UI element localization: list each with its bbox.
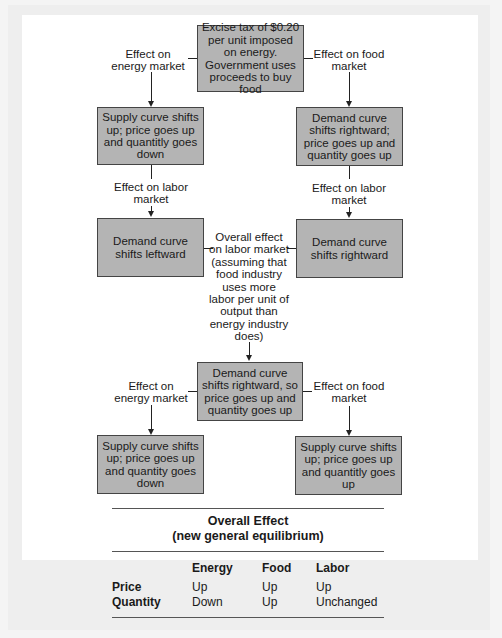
excise-tax-text: Excise tax of $0.20 per unit imposed on …	[201, 21, 300, 95]
effect-energy-label-top: Effect on energy market	[108, 48, 188, 73]
energy-final-text: Supply curve shifts up; price goes up an…	[101, 440, 200, 490]
table-subtitle: (new general equilibrium)	[112, 529, 384, 544]
overall-labor-effect-label: Overall effect on labor market (assuming…	[208, 231, 290, 343]
column-header-energy: Energy	[192, 561, 233, 575]
labor-demand-left-text: Demand curve shifts leftward	[101, 235, 200, 260]
effect-food-label-bottom: Effect on food market	[309, 380, 389, 405]
effect-labor-label-left: Effect on labor market	[111, 181, 191, 206]
excise-tax-box: Excise tax of $0.20 per unit imposed on …	[197, 25, 304, 92]
food-demand-shift-box: Demand curve shifts rightward; price goe…	[296, 107, 403, 166]
labor-overall-box: Demand curve shifts rightward, so price …	[197, 362, 303, 421]
price-labor: Up	[316, 580, 331, 594]
row-label-quantity: Quantity	[112, 595, 161, 609]
table-top-rule	[112, 508, 384, 509]
quantity-labor: Unchanged	[316, 595, 377, 609]
quantity-energy: Down	[192, 595, 223, 609]
arrow-down-icon	[148, 211, 154, 217]
food-final-text: Supply curve shifts up; price goes up an…	[299, 441, 398, 491]
table-header-rule	[112, 551, 384, 552]
labor-demand-right-box: Demand curve shifts rightward	[296, 219, 403, 278]
effect-energy-label-bottom: Effect on energy market	[111, 380, 191, 405]
column-header-food: Food	[262, 561, 291, 575]
arrow-down-icon	[246, 355, 252, 361]
arrow-line	[349, 166, 350, 179]
labor-overall-text: Demand curve shifts rightward, so price …	[201, 367, 299, 417]
arrow-line	[349, 72, 350, 101]
effect-food-label-top: Effect on food market	[309, 48, 389, 73]
connector	[188, 58, 197, 59]
quantity-food: Up	[262, 595, 277, 609]
arrow-line	[349, 406, 350, 430]
labor-demand-right-text: Demand curve shifts rightward	[300, 236, 399, 261]
effect-labor-label-right: Effect on labor market	[309, 182, 389, 207]
energy-supply-shift-text: Supply curve shifts up; price goes up an…	[101, 111, 200, 161]
food-demand-shift-text: Demand curve shifts rightward; price goe…	[300, 112, 399, 162]
table-title: Overall Effect	[112, 514, 384, 529]
table-bottom-rule	[112, 617, 384, 618]
energy-supply-shift-box: Supply curve shifts up; price goes up an…	[97, 107, 204, 165]
price-energy: Up	[192, 580, 207, 594]
food-final-box: Supply curve shifts up; price goes up an…	[295, 436, 402, 495]
arrow-line	[151, 165, 152, 179]
arrow-down-icon	[346, 212, 352, 218]
price-food: Up	[262, 580, 277, 594]
labor-demand-left-box: Demand curve shifts leftward	[97, 218, 204, 277]
energy-final-box: Supply curve shifts up; price goes up an…	[97, 435, 204, 494]
column-header-labor: Labor	[316, 561, 349, 575]
arrow-line	[151, 72, 152, 101]
arrow-line	[249, 342, 250, 356]
row-label-price: Price	[112, 580, 141, 594]
arrow-line	[151, 405, 152, 429]
